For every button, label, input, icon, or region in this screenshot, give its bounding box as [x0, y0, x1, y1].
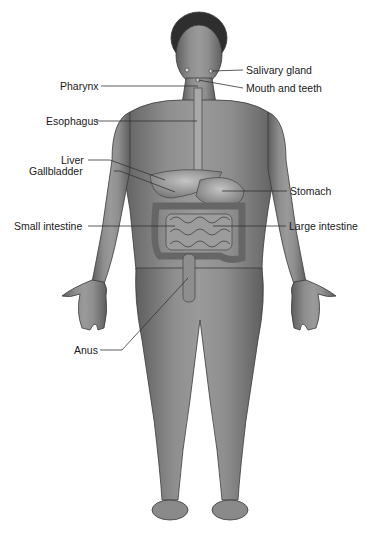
label-large-intestine: Large intestine [289, 220, 358, 232]
label-pharynx: Pharynx [60, 80, 99, 92]
label-salivary-gland: Salivary gland [246, 64, 312, 76]
small-intestine-organ [166, 214, 232, 250]
label-small-intestine: Small intestine [14, 220, 82, 232]
label-mouth-and-teeth: Mouth and teeth [246, 82, 322, 94]
label-esophagus: Esophagus [46, 115, 99, 127]
label-anus: Anus [74, 344, 98, 356]
label-gallbladder: Gallbladder [29, 165, 83, 177]
rectum-organ [183, 254, 195, 302]
label-stomach: Stomach [290, 185, 331, 197]
digestive-system-figure [0, 0, 371, 534]
